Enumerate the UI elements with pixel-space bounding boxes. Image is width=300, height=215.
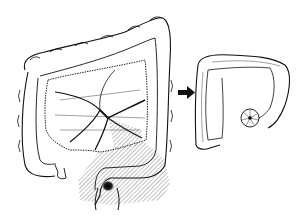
colectomy-illustration bbox=[0, 0, 300, 215]
right-arrow-icon bbox=[178, 86, 195, 99]
residual-colon-taenia bbox=[202, 61, 281, 142]
tumor bbox=[101, 180, 115, 192]
before-panel bbox=[18, 17, 173, 210]
appendix bbox=[55, 165, 66, 179]
residual-colon-inner bbox=[206, 67, 274, 140]
residual-colon-outer bbox=[195, 55, 289, 150]
stoma-lumen bbox=[248, 116, 252, 120]
after-panel bbox=[195, 55, 289, 150]
